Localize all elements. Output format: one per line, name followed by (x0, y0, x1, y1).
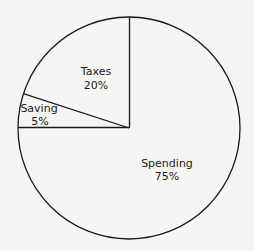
slice-spending: Spending 75% (141, 157, 193, 183)
slice-saving: Saving 5% (20, 102, 57, 128)
slice-label-spending: Spending (141, 157, 193, 170)
pie-chart: Taxes 20% Saving 5% Spending 75% (0, 0, 254, 251)
slice-value-taxes: 20% (84, 79, 108, 92)
slice-taxes: Taxes 20% (80, 65, 112, 92)
slice-label-saving: Saving (20, 102, 57, 115)
slice-value-saving: 5% (31, 115, 48, 128)
slice-value-spending: 75% (155, 170, 179, 183)
slice-label-taxes: Taxes (80, 65, 112, 78)
